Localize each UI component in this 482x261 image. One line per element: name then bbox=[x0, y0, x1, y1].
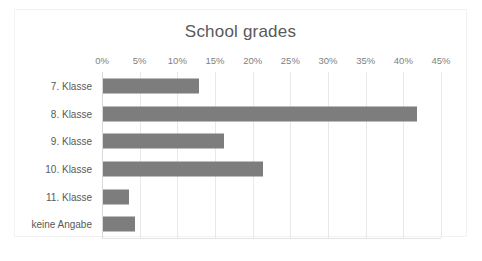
x-tick-label: 40% bbox=[394, 55, 413, 66]
bar bbox=[103, 189, 129, 204]
gridline-0pct bbox=[102, 72, 103, 238]
gridline-5pct bbox=[140, 72, 141, 238]
y-category-label: 11. Klasse bbox=[46, 191, 92, 202]
x-axis-line bbox=[102, 238, 441, 239]
gridline-15pct bbox=[215, 72, 216, 238]
y-axis-category-labels: 7. Klasse8. Klasse9. Klasse10. Klasse11.… bbox=[15, 72, 98, 238]
y-category-label: keine Angabe bbox=[31, 219, 92, 230]
x-tick-label: 15% bbox=[205, 55, 224, 66]
plot-area bbox=[102, 72, 441, 238]
gridline-25pct bbox=[290, 72, 291, 238]
bar bbox=[103, 134, 224, 149]
x-axis-tick-labels: 0%5%10%15%20%25%30%35%40%45% bbox=[102, 55, 441, 69]
gridline-35pct bbox=[366, 72, 367, 238]
gridline-40pct bbox=[403, 72, 404, 238]
x-tick-label: 25% bbox=[281, 55, 300, 66]
bar bbox=[103, 106, 417, 121]
x-tick-label: 0% bbox=[95, 55, 109, 66]
bar bbox=[103, 161, 263, 176]
chart-container: School grades 0%5%10%15%20%25%30%35%40%4… bbox=[14, 9, 467, 237]
x-tick-label: 10% bbox=[168, 55, 187, 66]
x-tick-label: 5% bbox=[133, 55, 147, 66]
bar bbox=[103, 217, 135, 232]
y-category-label: 10. Klasse bbox=[45, 163, 92, 174]
x-tick-label: 30% bbox=[318, 55, 337, 66]
gridline-45pct bbox=[441, 72, 442, 238]
y-category-label: 9. Klasse bbox=[51, 136, 92, 147]
chart-title: School grades bbox=[15, 22, 466, 42]
y-category-label: 8. Klasse bbox=[51, 108, 92, 119]
gridline-10pct bbox=[177, 72, 178, 238]
x-tick-label: 35% bbox=[356, 55, 375, 66]
x-tick-label: 20% bbox=[243, 55, 262, 66]
y-category-label: 7. Klasse bbox=[51, 80, 92, 91]
x-tick-label: 45% bbox=[431, 55, 450, 66]
bar bbox=[103, 78, 199, 93]
gridline-30pct bbox=[328, 72, 329, 238]
gridline-20pct bbox=[253, 72, 254, 238]
